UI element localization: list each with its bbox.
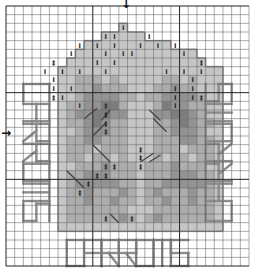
stitch-cell (197, 110, 206, 119)
letter-r (23, 144, 49, 161)
stitch-cell (58, 127, 67, 136)
stitch-cell (188, 110, 197, 119)
stitch-symbol: I (53, 85, 55, 93)
stitch-cell (145, 197, 154, 206)
stitch-symbol: I (70, 50, 72, 58)
stitch-cell (197, 205, 206, 214)
stitch-cell (101, 75, 110, 84)
stitch-cell (145, 75, 154, 84)
stitch-symbol: I (139, 42, 141, 50)
stitch-cell (84, 197, 93, 206)
stitch-cell (84, 119, 93, 128)
stitch-cell (154, 214, 163, 223)
stitch-cell (197, 153, 206, 162)
stitch-cell (75, 171, 84, 180)
stitch-cell (162, 93, 171, 102)
stitch-cell (67, 153, 76, 162)
stitch-cell (75, 93, 84, 102)
stitch-cell (128, 32, 137, 41)
letter-m (23, 184, 49, 201)
stitch-cell (128, 119, 137, 128)
stitch-cell (206, 145, 215, 154)
stitch-cell (110, 67, 119, 76)
stitch-cell (162, 153, 171, 162)
stitch-cell (197, 223, 206, 232)
stitch-cell (67, 119, 76, 128)
stitch-cell (162, 188, 171, 197)
stitch-cell (162, 214, 171, 223)
stitch-symbol: I (79, 102, 81, 110)
stitch-cell (84, 145, 93, 154)
stitch-symbol: I (174, 42, 176, 50)
stitch-symbol: I (122, 24, 124, 32)
stitch-cell (75, 75, 84, 84)
stitch-cell (197, 179, 206, 188)
stitch-cell (119, 84, 128, 93)
stitch-cell (84, 58, 93, 67)
stitch-cell (188, 101, 197, 110)
stitch-cell (154, 145, 163, 154)
stitch-cell (180, 93, 189, 102)
stitch-cell (84, 136, 93, 145)
stitch-cell (180, 119, 189, 128)
stitch-cell (206, 75, 215, 84)
stitch-cell (154, 197, 163, 206)
letter-s (23, 204, 49, 221)
stitch-cell (145, 214, 154, 223)
stitch-cell (171, 119, 180, 128)
stitch-cell (93, 49, 102, 58)
letter-stroke (23, 151, 36, 161)
stitch-cell (67, 197, 76, 206)
stitch-cell (162, 145, 171, 154)
stitch-cell (58, 153, 67, 162)
stitch-symbol: I (53, 76, 55, 84)
stitch-cell (180, 171, 189, 180)
stitch-cell (162, 58, 171, 67)
stitch-cell (67, 145, 76, 154)
stitch-cell (171, 205, 180, 214)
stitch-cell (67, 67, 76, 76)
stitch-cell (180, 75, 189, 84)
stitch-cell (128, 110, 137, 119)
stitch-cell (171, 162, 180, 171)
stitch-cell (67, 205, 76, 214)
stitch-cell (206, 188, 215, 197)
stitch-cell (136, 84, 145, 93)
stitch-cell (93, 214, 102, 223)
stitch-cell (110, 93, 119, 102)
stitch-cell (197, 84, 206, 93)
stitch-cell (58, 136, 67, 145)
stitch-cell (154, 67, 163, 76)
stitch-cell (110, 127, 119, 136)
stitch-cell (119, 93, 128, 102)
stitch-cell (75, 223, 84, 232)
stitch-cell (110, 197, 119, 206)
stitch-symbol: I (131, 50, 133, 58)
stitch-cell (93, 205, 102, 214)
stitch-cell (145, 171, 154, 180)
stitch-cell (58, 84, 67, 93)
stitch-cell (145, 58, 154, 67)
stitch-cell (154, 84, 163, 93)
stitch-cell (136, 205, 145, 214)
stitch-symbol: I (61, 68, 63, 76)
stitch-cell (162, 84, 171, 93)
stitch-cell (136, 136, 145, 145)
stitch-cell (84, 67, 93, 76)
stitch-cell (180, 223, 189, 232)
stitch-symbol: I (105, 50, 107, 58)
stitch-cell (214, 67, 223, 76)
stitch-cell (128, 179, 137, 188)
stitch-cell (154, 153, 163, 162)
stitch-symbol: I (122, 50, 124, 58)
stitch-cell (180, 197, 189, 206)
stitch-cell (162, 110, 171, 119)
stitch-cell (171, 145, 180, 154)
stitch-symbol: ‡ (52, 59, 56, 67)
stitch-cell (197, 127, 206, 136)
stitch-cell (84, 214, 93, 223)
stitch-cell (84, 153, 93, 162)
stitch-cell (188, 49, 197, 58)
stitch-cell (188, 67, 197, 76)
stitch-cell (75, 153, 84, 162)
